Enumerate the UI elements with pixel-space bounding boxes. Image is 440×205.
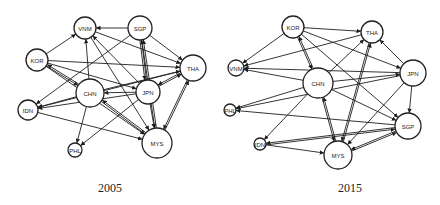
edge-tha-mys: [342, 43, 369, 142]
edge-chn-vnm: [86, 39, 89, 79]
edge-kor-chn: [46, 66, 78, 86]
node-label: KOR: [286, 25, 300, 31]
node-label: SGP: [134, 26, 147, 32]
node-chn: CHN: [303, 68, 333, 98]
edge-mys-sgp: [352, 132, 397, 151]
node-mys: MYS: [324, 141, 352, 169]
node-label: IDN: [255, 142, 265, 148]
node-phl: PHL: [224, 104, 236, 116]
node-jpn: JPN: [400, 60, 426, 86]
edge-idn-mys: [38, 112, 143, 139]
edge-mys-chn: [102, 100, 146, 133]
node-tha: THA: [180, 55, 206, 81]
node-label: CHN: [312, 81, 325, 87]
edge-chn-mys: [101, 101, 145, 134]
node-label: MYS: [150, 141, 163, 147]
node-label: KOR: [30, 58, 44, 64]
edge-chn-tha: [329, 40, 364, 73]
edge-jpn-mys: [347, 83, 404, 145]
nodes-2005: VNMSGPKORTHACHNJPNIDNPHLMYS: [18, 16, 206, 158]
edge-idn-mys: [266, 145, 324, 153]
node-tha: THA: [361, 21, 383, 43]
node-idn: IDN: [254, 138, 266, 150]
node-idn: IDN: [18, 100, 38, 120]
edge-chn-phl: [236, 87, 304, 108]
node-sgp: SGP: [395, 113, 421, 139]
node-phl: PHL: [68, 143, 82, 157]
node-label: SGP: [402, 124, 415, 130]
node-label: JPN: [142, 90, 153, 96]
edge-tha-jpn: [158, 73, 181, 85]
edge-kor-vnm: [46, 34, 76, 54]
node-jpn: JPN: [136, 80, 160, 104]
edge-jpn-chn: [104, 92, 136, 93]
edge-chn-sgp: [332, 89, 397, 120]
node-label: THA: [366, 30, 378, 36]
node-label: MYS: [331, 153, 344, 159]
network-diagram: VNMSGPKORTHACHNJPNIDNPHLMYS 2005 KORTHAV…: [0, 0, 440, 205]
edge-tha-vnm: [244, 35, 362, 66]
edge-sgp-phl: [236, 111, 395, 125]
panel-2015: KORTHAVNMJPNCHNPHLSGPIDNMYS 2015: [224, 16, 426, 195]
node-label: PHL: [69, 148, 81, 154]
edge-jpn-tha: [380, 40, 404, 64]
node-kor: KOR: [282, 16, 304, 38]
node-chn: CHN: [76, 79, 104, 107]
edges-2005: [36, 28, 189, 146]
node-kor: KOR: [26, 49, 48, 71]
edge-chn-vnm: [244, 69, 303, 80]
edge-tha-mys: [163, 80, 187, 130]
edge-sgp-tha: [150, 35, 183, 60]
node-label: VNM: [78, 26, 91, 32]
edge-chn-kor: [299, 36, 313, 68]
node-label: PHL: [224, 108, 236, 114]
edge-kor-tha: [48, 61, 180, 68]
node-sgp: SGP: [128, 16, 152, 40]
node-label: VNM: [229, 66, 242, 72]
edge-mys-tha: [165, 80, 189, 130]
node-label: CHN: [84, 91, 97, 97]
node-vnm: VNM: [228, 60, 244, 76]
node-mys: MYS: [142, 128, 172, 158]
caption-2015: 2015: [338, 181, 362, 195]
panel-2005: VNMSGPKORTHACHNJPNIDNPHLMYS 2005: [18, 16, 206, 195]
edge-kor-vnm: [242, 33, 284, 63]
edge-jpn-sgp: [409, 86, 412, 113]
node-label: THA: [187, 66, 199, 72]
node-vnm: VNM: [74, 17, 96, 39]
edge-mys-tha: [343, 43, 370, 142]
node-label: JPN: [407, 71, 418, 77]
edge-kor-tha: [304, 28, 361, 32]
edge-jpn-vnm: [93, 36, 140, 84]
caption-2005: 2005: [98, 181, 122, 195]
node-label: IDN: [23, 108, 33, 114]
edge-kor-jpn: [303, 31, 401, 68]
